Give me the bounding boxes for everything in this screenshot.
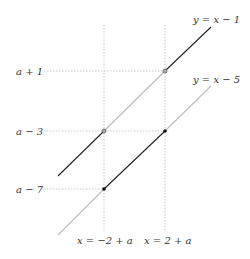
- x-label-minus-2-plus-a: x = −2 + a: [77, 235, 133, 246]
- y-label-a-minus-3: a − 3: [16, 126, 43, 137]
- line-label-y-x-minus-1: y = x − 1: [192, 14, 240, 25]
- closed-point-left: [102, 187, 106, 191]
- line-y-x-minus-5-lower-faded: [58, 189, 104, 235]
- x-label-2-plus-a: x = 2 + a: [144, 235, 191, 246]
- line-y-x-minus-5-middle-solid: [104, 131, 165, 189]
- line-label-y-x-minus-5: y = x − 5: [192, 74, 240, 85]
- line-y-x-minus-1-middle-faded: [104, 71, 165, 131]
- closed-point-right: [163, 129, 167, 133]
- open-point-upper-right: [163, 69, 167, 73]
- open-point-lower-left: [102, 129, 106, 133]
- piecewise-diagram: y = x − 1 y = x − 5 a + 1 a − 3 a − 7 x …: [0, 0, 250, 259]
- line-y-x-minus-5-upper-faded: [165, 86, 211, 131]
- line-y-x-minus-1-upper-solid: [165, 27, 211, 71]
- line-y-x-minus-1-lower-solid: [58, 131, 104, 176]
- y-label-a-minus-7: a − 7: [16, 184, 44, 195]
- y-label-a-plus-1: a + 1: [16, 66, 43, 77]
